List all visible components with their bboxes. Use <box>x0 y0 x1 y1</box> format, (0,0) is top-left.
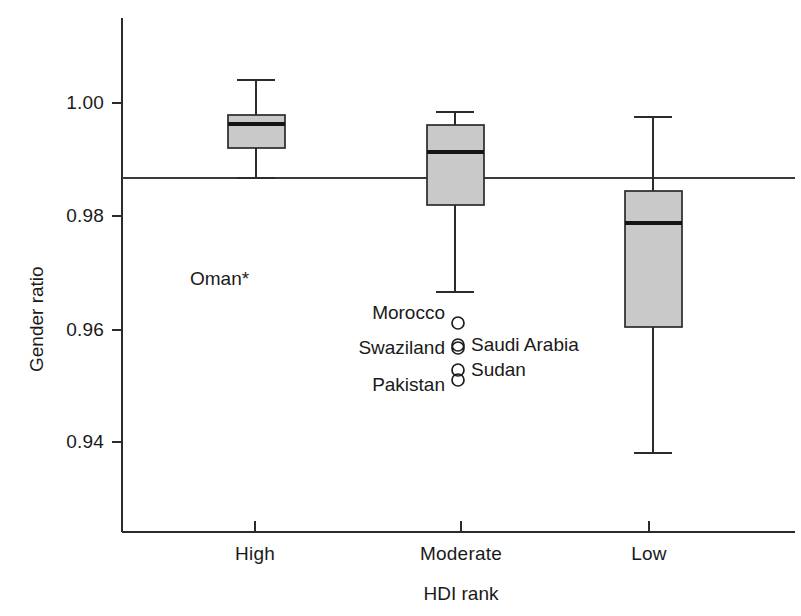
y-axis-title: Gender ratio <box>26 266 48 372</box>
box-group-high <box>228 80 285 178</box>
outlier-label-swaziland: Swaziland <box>290 337 445 359</box>
x-tick-label-low: Low <box>589 543 709 565</box>
outlier-label-pakistan: Pakistan <box>290 374 445 396</box>
x-axis-title: HDI rank <box>391 583 531 605</box>
box-group-low <box>625 117 682 453</box>
box-low <box>625 191 682 327</box>
boxplot-figure: 1.00 0.98 0.96 0.94 High Moderate Low Ge… <box>0 0 801 616</box>
annotation-oman: Oman* <box>190 268 249 290</box>
outlier-point-morocco <box>452 317 464 329</box>
x-tick-label-moderate: Moderate <box>391 543 531 565</box>
outlier-label-sudan: Sudan <box>471 359 526 381</box>
y-tick-label-4: 0.94 <box>32 431 104 453</box>
box-moderate <box>427 125 484 205</box>
outlier-label-saudi-arabia: Saudi Arabia <box>471 334 579 356</box>
box-group-moderate <box>427 112 484 292</box>
y-tick-label-2: 0.98 <box>32 205 104 227</box>
y-tick-label-1: 1.00 <box>32 92 104 114</box>
box-high <box>228 115 285 148</box>
outlier-label-morocco: Morocco <box>290 302 445 324</box>
x-tick-label-high: High <box>195 543 315 565</box>
